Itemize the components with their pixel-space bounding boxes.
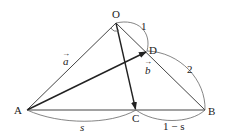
measure-DB: 2 (187, 63, 193, 75)
arc-CB (136, 110, 205, 121)
measure-AC: s (80, 121, 84, 133)
label-O: O (112, 8, 120, 20)
label-A: A (14, 104, 22, 116)
arrow-over-a: → (62, 49, 70, 58)
vector-OC (116, 23, 136, 109)
label-B: B (208, 105, 215, 117)
label-D: D (149, 44, 157, 56)
geometry-diagram: O A B C D a → b → 1 2 s 1 − s (0, 0, 227, 138)
arrow-over-b: → (144, 57, 152, 66)
arc-AC (27, 110, 136, 121)
vector-AD (27, 52, 146, 110)
measure-CB: 1 − s (163, 120, 184, 132)
segment-OA (27, 23, 116, 110)
label-C: C (132, 112, 139, 124)
measure-OD: 1 (141, 20, 147, 32)
